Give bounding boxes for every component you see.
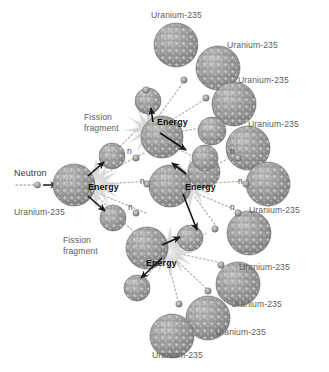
label-uranium-right-3: Uranium-235 bbox=[231, 299, 282, 310]
label-neutron-n-2: n bbox=[140, 176, 145, 187]
label-uranium-right-1: Uranium-235 bbox=[249, 205, 300, 216]
label-neutron-n-6: n bbox=[230, 202, 235, 213]
nucleus-u-free-1 bbox=[154, 23, 198, 67]
nucleus-frag-5 bbox=[177, 225, 203, 251]
label-uranium-bottom-1: Uranium-235 bbox=[215, 327, 266, 338]
nucleus-frag-6 bbox=[124, 275, 150, 301]
incoming-neutron-trail bbox=[16, 182, 41, 188]
label-uranium-top-4: Uranium-235 bbox=[248, 119, 299, 130]
diagram-artwork bbox=[0, 0, 329, 372]
label-energy-top: Energy bbox=[157, 117, 188, 128]
label-uranium-top-1: Uranium-235 bbox=[151, 10, 202, 21]
label-uranium-left: Uranium-235 bbox=[14, 207, 65, 218]
nucleus-frag-4 bbox=[192, 145, 218, 171]
label-uranium-bottom-2: Uranium-235 bbox=[152, 350, 203, 361]
label-neutron-n-5: n bbox=[238, 176, 243, 187]
label-fission-fragment-1-line2: fragment bbox=[84, 123, 119, 134]
label-energy-mid-left: Energy bbox=[88, 182, 119, 193]
nucleus-frag-1 bbox=[99, 143, 125, 169]
label-neutron: Neutron bbox=[14, 168, 47, 179]
label-neutron-n-3: n bbox=[128, 202, 133, 213]
label-fission-fragment-2-line2: fragment bbox=[63, 246, 98, 257]
label-uranium-right-2: Uranium-235 bbox=[239, 262, 290, 273]
fission-chain-reaction-figure: Neutron Uranium-235 Fission fragment Fis… bbox=[0, 0, 329, 372]
nucleus-frag-2 bbox=[100, 205, 126, 231]
label-fission-fragment-1-line1: Fission bbox=[84, 112, 112, 123]
label-fission-fragment-2-line1: Fission bbox=[63, 235, 91, 246]
label-energy-mid-right: Energy bbox=[185, 182, 216, 193]
label-neutron-n-1: n bbox=[127, 146, 132, 157]
label-uranium-top-3: Uranium-235 bbox=[238, 75, 289, 86]
label-energy-bottom: Energy bbox=[146, 258, 177, 269]
label-uranium-top-2: Uranium-235 bbox=[227, 40, 278, 51]
nucleus-u-free-7 bbox=[246, 162, 290, 206]
nucleus-u-free-8 bbox=[227, 211, 271, 255]
label-neutron-n-4: n bbox=[230, 146, 235, 157]
nucleus-u-free-4 bbox=[198, 117, 226, 145]
